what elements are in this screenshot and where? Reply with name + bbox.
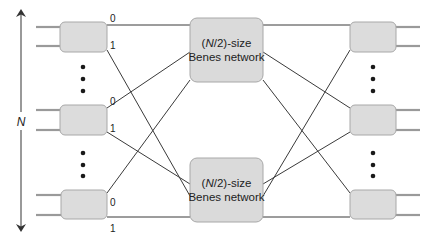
- right-wires: [263, 25, 350, 217]
- subnetwork-top-label-line2: Benes network: [188, 51, 264, 63]
- subnetwork-bottom-label-line2: Benes network: [188, 191, 264, 203]
- subnetwork-top: (N/2)-size Benes network: [188, 18, 264, 82]
- subnetwork-top-label-line1: (N/2)-size: [202, 37, 252, 49]
- port-label-left-middle-1: 1: [110, 123, 116, 134]
- ellipsis-left-lower: [81, 151, 86, 179]
- left-input-ports: [36, 27, 61, 215]
- port-label-left-bottom-1: 1: [110, 223, 116, 234]
- switch-right-bottom: [350, 190, 396, 219]
- port-label-left-top-1: 1: [110, 40, 116, 51]
- port-label-left-middle-0: 0: [110, 96, 116, 107]
- size-label-n: N: [17, 115, 26, 129]
- size-arrow: N: [17, 13, 26, 228]
- switch-right-top: [350, 22, 396, 52]
- ellipsis-right-upper: [371, 65, 376, 94]
- left-wires: [107, 25, 190, 217]
- ellipsis-right-lower: [371, 151, 376, 179]
- switch-right-middle: [350, 105, 396, 135]
- port-label-left-bottom-0: 0: [110, 197, 116, 208]
- switch-left-top: [60, 22, 107, 52]
- switch-left-bottom: [61, 190, 107, 219]
- benes-network-diagram: N: [0, 0, 437, 241]
- ellipsis-left-upper: [81, 65, 86, 94]
- right-output-ports: [395, 27, 420, 215]
- subnetwork-bottom-label-line1: (N/2)-size: [202, 177, 252, 189]
- switch-left-middle: [60, 105, 107, 135]
- subnetwork-bottom: (N/2)-size Benes network: [188, 158, 264, 222]
- port-label-left-top-0: 0: [110, 13, 116, 24]
